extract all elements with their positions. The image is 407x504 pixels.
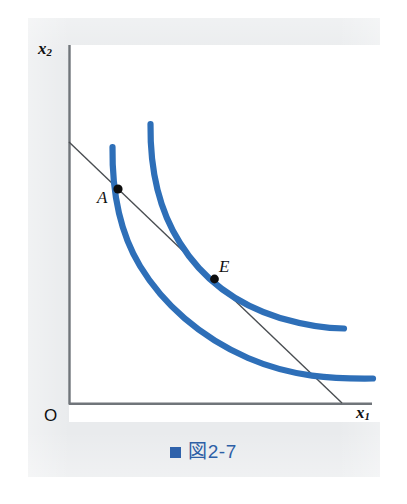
point-e-label: E	[219, 258, 229, 275]
x-axis-label-base: x	[356, 403, 365, 422]
y-axis-label: x2	[38, 40, 52, 57]
y-axis-label-base: x	[38, 39, 47, 58]
figure-panel	[28, 18, 380, 477]
x-axis-label-subscript: 1	[365, 410, 370, 422]
plot-area	[69, 45, 400, 422]
origin-label: O	[44, 407, 57, 424]
figure-caption: 図2-7	[0, 442, 407, 461]
caption-square-icon	[170, 447, 181, 458]
y-axis-label-subscript: 2	[47, 46, 52, 58]
x-axis-label: x1	[356, 404, 370, 421]
caption-text: 図2-7	[188, 442, 236, 461]
point-a-label: A	[97, 189, 107, 206]
